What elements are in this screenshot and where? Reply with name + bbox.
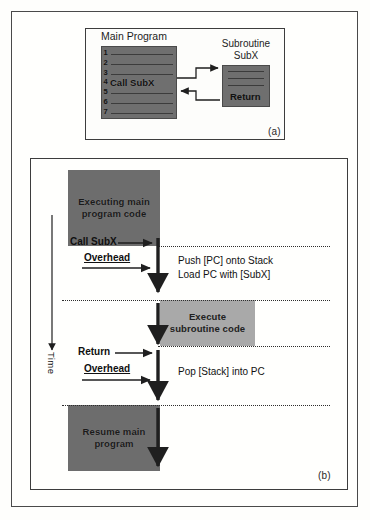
code-line [111, 64, 173, 65]
figure-subroutine-call-timing: Main Program Subroutine SubX 1 2 3 4 5 6… [0, 0, 370, 520]
return-instruction: Return [230, 91, 261, 102]
label-overhead-return: Overhead [84, 363, 130, 374]
line-number: 5 [104, 88, 108, 96]
block-execute-sub-line2: subroutine code [170, 323, 245, 334]
note-pop-stack: Pop [Stack] into PC [178, 365, 265, 379]
call-subx-instruction: Call SubX [110, 77, 154, 88]
code-line [111, 74, 173, 75]
code-line [111, 54, 173, 55]
phase-divider-resume [62, 405, 330, 406]
note-push-line1: Push [PC] onto Stack [178, 255, 273, 266]
code-line [228, 71, 264, 72]
block-executing-main-line2: program code [82, 208, 147, 219]
block-executing-main-line1: Executing main [78, 196, 150, 207]
code-line [111, 103, 173, 104]
block-resume-line1: Resume main [83, 426, 146, 437]
label-overhead-call: Overhead [84, 252, 130, 263]
line-number: 1 [104, 49, 108, 57]
label-return: Return [78, 346, 110, 357]
subroutine-title-line1: Subroutine [222, 38, 270, 49]
code-line [228, 78, 264, 79]
block-execute-subroutine-code: Execute subroutine code [160, 300, 255, 346]
caption-a: (a) [268, 126, 281, 137]
main-program-title: Main Program [101, 30, 167, 42]
subroutine-code-block: Return [222, 65, 270, 107]
note-push-line2: Load PC with [SubX] [178, 269, 270, 280]
line-number: 6 [104, 98, 108, 106]
phase-divider-return [158, 346, 330, 347]
note-push-pc: Push [PC] onto Stack Load PC with [SubX] [178, 254, 273, 281]
block-executing-main-program: Executing main program code [68, 170, 160, 246]
block-resume-line2: program [94, 438, 133, 449]
label-call-subx: Call SubX [70, 236, 117, 247]
time-axis-label: Time [46, 352, 57, 374]
code-line [111, 93, 173, 94]
main-program-code-block: 1 2 3 4 5 6 7 Call SubX [101, 46, 177, 119]
line-number: 4 [104, 78, 108, 86]
subroutine-title-line2: SubX [234, 50, 258, 61]
subroutine-title: Subroutine SubX [212, 38, 280, 62]
line-number: 7 [104, 108, 108, 116]
phase-divider-call [158, 246, 330, 247]
caption-b: (b) [318, 470, 331, 481]
line-number: 2 [104, 59, 108, 67]
block-execute-sub-line1: Execute [189, 311, 226, 322]
phase-divider-enter-sub [62, 300, 330, 301]
code-line [111, 113, 173, 114]
block-resume-main-program: Resume main program [68, 405, 160, 471]
code-line [228, 85, 264, 86]
line-number: 3 [104, 69, 108, 77]
